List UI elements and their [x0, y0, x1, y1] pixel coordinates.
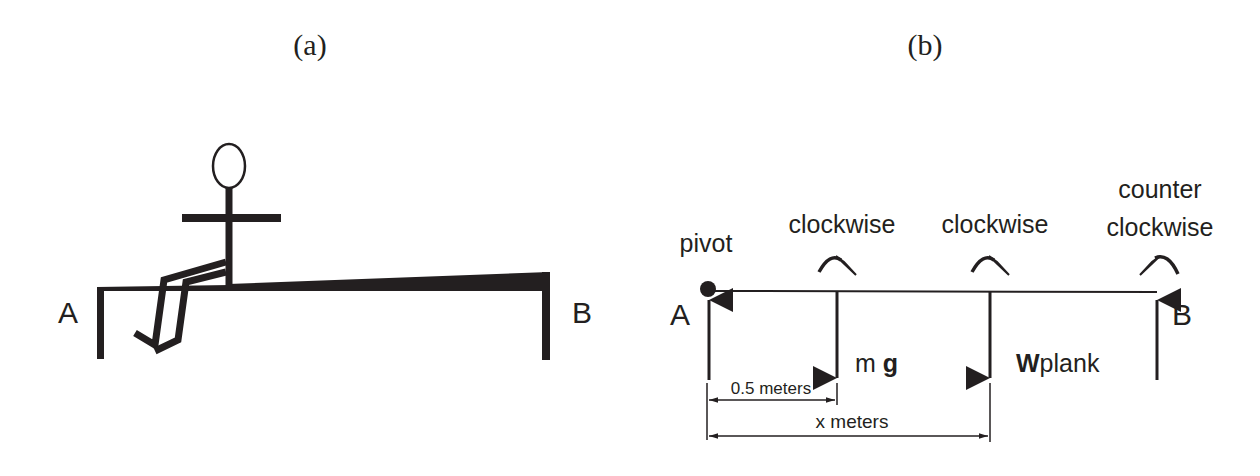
beam-line — [708, 291, 1157, 292]
right-support-leg — [542, 272, 550, 360]
panel-b: (b) pivot A B m g Wplank clockwise clock… — [670, 28, 1214, 442]
torque-b-label-line1: counter — [1118, 175, 1201, 203]
panel-a-caption: (a) — [293, 28, 326, 62]
plank-top — [228, 272, 549, 291]
pivot-label: pivot — [680, 229, 733, 257]
panel-b-label-a: A — [670, 298, 690, 331]
figure-head — [213, 144, 245, 188]
left-support-leg — [97, 287, 104, 359]
force-wplank-label: Wplank — [1016, 349, 1100, 377]
force-mg-label: m g — [855, 349, 898, 377]
panel-b-caption: (b) — [908, 28, 943, 62]
torque-wplank-label: clockwise — [942, 210, 1049, 238]
dimension-short-label: 0.5 meters — [731, 379, 811, 398]
dimension-long-label: x meters — [816, 411, 889, 432]
torque-b-label-line2: clockwise — [1107, 213, 1214, 241]
panel-a-label-a: A — [58, 296, 78, 329]
clockwise-arrow-wplank-icon — [972, 256, 1009, 275]
stick-figure — [135, 144, 281, 351]
figure: (a) A B (b) pivot — [0, 0, 1260, 476]
pivot-point — [700, 281, 716, 297]
panel-b-label-b: B — [1172, 298, 1192, 331]
clockwise-arrow-mg-icon — [819, 256, 856, 275]
torque-mg-label: clockwise — [789, 210, 896, 238]
panel-a-label-b: B — [572, 296, 592, 329]
panel-a: (a) A B — [58, 28, 592, 360]
counterclockwise-arrow-b-icon — [1140, 256, 1178, 275]
